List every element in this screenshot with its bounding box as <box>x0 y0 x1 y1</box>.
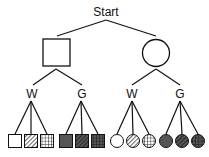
edges-level1 <box>33 69 180 85</box>
leaf-circle-gray-grid <box>192 135 205 148</box>
leaf-circle-white-solid <box>111 135 124 148</box>
leaf-circle-white-striped <box>127 135 140 148</box>
edges-level2 <box>15 101 198 134</box>
tree-diagram: Start W G W G <box>0 0 209 157</box>
leaf-square-gray-grid <box>92 135 105 148</box>
leaf-square-gray-striped <box>76 135 89 148</box>
leaf-circle-white-grid <box>143 135 156 148</box>
square-g-label: G <box>77 87 86 101</box>
leaf-circle-gray-solid <box>160 135 173 148</box>
square-leaves <box>9 135 105 148</box>
edges-root <box>57 20 156 36</box>
root-label: Start <box>93 5 119 19</box>
leaf-square-gray-solid <box>60 135 73 148</box>
leaf-circle-gray-striped <box>176 135 189 148</box>
circle-w-label: W <box>126 87 138 101</box>
leaf-square-white-grid <box>41 135 54 148</box>
leaf-square-white-striped <box>25 135 38 148</box>
leaf-square-white-solid <box>9 135 22 148</box>
square-w-label: W <box>26 87 38 101</box>
circle-g-label: G <box>175 87 184 101</box>
square-node <box>43 39 70 66</box>
circle-leaves <box>111 135 205 148</box>
circle-node <box>143 40 170 67</box>
